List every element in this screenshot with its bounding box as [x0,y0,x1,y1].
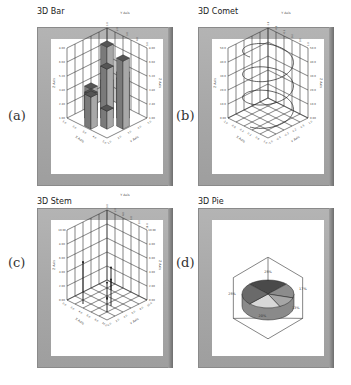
bar-chart-top-tick-label: 1.0 [106,22,109,26]
bar-chart-y-tick-label: 3.0 [127,130,132,135]
charts-canvas: 1.001.002.402.403.803.805.205.206.606.60… [0,0,351,385]
stem-chart-top-tick-label: 10.0 [146,223,149,229]
stem-chart-top-tick-label: 8.0 [138,220,141,224]
bar-chart-z-tick-label-right: 6.60 [149,61,155,64]
bar-chart-x-tick-label: 4.0 [92,135,97,140]
comet-chart-top-tick-label: -0.6 [275,25,278,30]
chart-3d-stem: 0.000.002.002.004.004.006.006.008.008.00… [52,193,162,328]
stem-chart-gridline-floor [99,284,139,304]
bar-chart-top-axis-title: Y Axis [120,11,130,15]
comet-chart-z-tick-label-right: 20.0 [310,89,316,92]
comet-chart-y-tick-label: -1.0 [268,140,274,146]
stem-chart-y-tick-label: 2.0 [115,318,120,323]
comet-chart-z-axis-title: Z Axis [213,78,217,88]
stem-chart-x-tick-label: 8.0 [94,318,99,323]
comet-chart-z-tick-label: 40.0 [220,61,226,64]
comet-chart-x-tick-label: -0.2 [238,128,244,134]
bar-chart-z-tick-label: 5.20 [59,75,65,78]
bar-left-face [117,58,123,129]
comet-chart-gridline-floor [244,106,284,126]
stem-marker [106,297,108,299]
bar-chart-z-tick-label: 6.60 [59,61,65,64]
stem-chart-y-tick-label: 4.0 [123,314,128,319]
stem-marker [110,267,112,269]
stem-chart-top-tick-label: 4.0 [122,212,125,216]
bar-chart-z-tick-label-right: 3.80 [149,89,155,92]
stem-chart-z-tick-label: 6.00 [59,257,65,260]
bar-chart-z-tick-label: 1.00 [59,117,65,120]
comet-chart-gridline-floor [252,106,292,126]
comet-chart-y-tick-label: 1.0 [308,120,313,125]
bar-right-face [107,108,113,129]
comet-chart-x-axis-title: X Axis [235,135,246,144]
bar-right-face [123,58,129,129]
stem-chart-z-tick-label: 0.00 [59,299,65,302]
stem-chart-y-tick-label: 0.0 [107,322,112,327]
comet-chart-x-tick-label: 0.2 [247,132,252,137]
stem-chart-z-tick-label-right: 4.00 [149,271,155,274]
stem-chart-y-tick-label: 6.0 [131,310,136,315]
stem-chart-z-tick-label-right: 6.00 [149,257,155,260]
stem-chart-gridline-floor [83,292,123,312]
pie-slice-label: 17% [299,287,307,291]
bar-chart-x-tick-label: 3.0 [82,130,87,135]
stem-chart-z-tick-label: 2.00 [59,285,65,288]
comet-chart-top-tick-label: 0.2 [291,34,294,38]
comet-chart-x-tick-label: -1.0 [222,120,228,126]
bar-chart-z-tick-label-right: 5.20 [149,75,155,78]
comet-chart-z-tick-label: 20.0 [220,89,226,92]
comet-chart-y-tick-label: 0.2 [292,128,297,133]
pie-slice-label: 13% [292,306,300,310]
comet-chart-z-tick-label: 10.0 [220,103,226,106]
bar-right-face [91,94,97,129]
stem-chart-x-tick-label: 6.0 [86,314,91,319]
comet-chart-z-tick-label: 30.0 [220,75,226,78]
bar-chart-top-tick-label: 4.0 [136,37,139,41]
stem-chart-z-tick-label: 10.00 [58,229,66,232]
bar-chart-top-tick-label: 2.0 [116,27,119,31]
comet-chart-top-tick-label: 1.0 [307,42,310,46]
stem-chart-x-tick-label: 0.0 [62,302,67,307]
stem-chart-gridline-floor [75,284,115,304]
bar-chart-y-tick-label: 1.0 [107,140,112,145]
stem-chart-gridline-floor [83,288,123,308]
comet-chart-y-axis-title: Y Axis [290,135,300,144]
comet-chart-x-tick-label: 0.6 [255,136,260,141]
stem-marker [106,282,108,284]
pie-slice-label: 25% [228,292,236,296]
bar-chart-x-axis-title: X Axis [74,135,85,144]
bar-chart-z-tick-label-right: 8.00 [149,47,155,50]
stem-chart-y-tick-label: 10.0 [146,302,153,308]
stem-chart-top-tick-label: 2.0 [114,208,117,212]
bar-chart-top-tick-label: 5.0 [146,42,149,46]
bar-chart-x-tick-label: 2.0 [72,125,77,130]
stem-chart-x-tick-label: 4.0 [78,310,83,315]
comet-chart-y-tick-label: -0.2 [284,132,290,138]
stem-chart-z-tick-label-right: 2.00 [149,285,155,288]
stem-chart-y-tick-label: 8.0 [139,306,144,311]
comet-chart-z-axis-title-right: Z Axis [319,78,323,88]
bar-chart-z-tick-label-right: 2.40 [149,103,155,106]
comet-chart-z-tick-label: 50.0 [220,47,226,50]
stem-chart-z-axis-title-right: Z Axis [158,260,162,270]
bar-chart-z-axis-title-right: Z Axis [158,78,162,88]
comet-chart-z-tick-label-right: 40.0 [310,61,316,64]
stem-chart-x-tick-label: 2.0 [70,306,75,311]
comet-chart-top-axis-title: Y Axis [281,11,291,15]
pie-slice-label: 25% [264,270,272,274]
stem-chart-y-axis-title: Y Axis [129,317,139,326]
stem-chart-z-tick-label-right: 8.00 [149,243,155,246]
pie-slice-label: 20% [259,314,267,318]
stem-chart-z-tick-label-right: 10.00 [148,229,156,232]
stem-chart-z-tick-label: 8.00 [59,243,65,246]
comet-chart-x-tick-label: -0.6 [230,124,236,130]
bar-chart-y-tick-label: 5.0 [147,120,152,125]
comet-chart-z-tick-label-right: 50.0 [310,47,316,50]
stem-marker [82,261,84,263]
bar-chart-z-tick-label: 3.80 [59,89,65,92]
comet-chart-z-tick-label-right: 10.0 [310,103,316,106]
bar-left-face [85,94,91,129]
stem-chart-z-tick-label: 4.00 [59,271,65,274]
bar-chart-y-tick-label: 2.0 [117,135,122,140]
stem-chart-top-tick-label: 6.0 [130,216,133,220]
